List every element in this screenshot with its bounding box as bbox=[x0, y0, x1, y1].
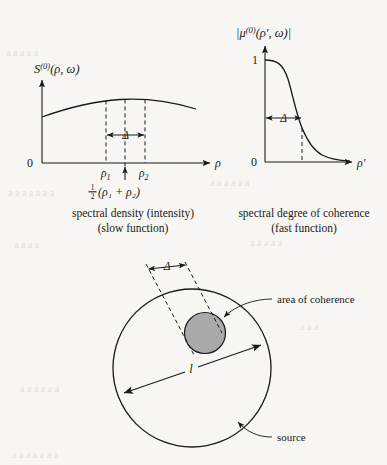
left-plot-caption-line1: spectral density (intensity) bbox=[72, 207, 194, 220]
svg-text:a a a a a a a: a a a a a a a bbox=[8, 187, 55, 198]
midpoint-fraction-denominator: 2 bbox=[91, 192, 95, 201]
source-label-leader bbox=[238, 422, 272, 437]
source-diameter-label: l bbox=[189, 362, 193, 376]
right-plot-y-axis-label: |μ(0)(ρ′, ω)| bbox=[236, 25, 291, 41]
right-plot-ytick-one: 1 bbox=[252, 53, 258, 67]
svg-text:a a a a a a a: a a a a a a a bbox=[12, 449, 59, 460]
left-plot-tick-rho2: ρ2 bbox=[138, 167, 149, 182]
right-plot-delta-label: Δ bbox=[279, 112, 287, 124]
svg-text:a a a a a: a a a a a bbox=[250, 237, 283, 248]
left-plot-origin-label: 0 bbox=[27, 156, 33, 170]
left-plot-y-axis-label: S(0)(ρ, ω) bbox=[34, 61, 80, 77]
svg-text:a a a a a a: a a a a a a bbox=[20, 383, 60, 394]
left-plot-curve bbox=[42, 99, 196, 117]
left-plot-delta-label: Δ bbox=[121, 129, 129, 141]
svg-text:a a a: a a a bbox=[300, 321, 319, 332]
left-plot-midpoint-label: 1 2 (ρ₁ + ρ₂) bbox=[89, 183, 140, 201]
source-delta-label: Δ bbox=[163, 260, 171, 272]
area-of-coherence-circle bbox=[185, 313, 226, 354]
source-diagram: Δ l area of coherence source bbox=[113, 260, 355, 447]
area-of-coherence-label: area of coherence bbox=[277, 293, 355, 305]
left-plot-caption-line2: (slow function) bbox=[98, 222, 169, 235]
svg-text:a a a a: a a a a bbox=[14, 239, 40, 250]
source-diameter-arrow-left bbox=[124, 372, 185, 393]
area-of-coherence-leader bbox=[224, 299, 272, 317]
svg-text:a a a a a a: a a a a a a bbox=[210, 177, 250, 188]
right-plot-origin-label: 0 bbox=[251, 155, 257, 169]
right-plot-caption-line1: spectral degree of coherence bbox=[238, 207, 369, 220]
left-plot-x-axis-label: ρ bbox=[214, 156, 221, 170]
midpoint-expression: (ρ₁ + ρ₂) bbox=[98, 185, 140, 199]
right-plot-curve bbox=[265, 60, 350, 161]
right-plot: Δ |μ(0)(ρ′, ω)| 1 0 ρ′ spectral degree o… bbox=[236, 25, 370, 236]
coherence-figure: a a a a a a a a a a a a a a a a a a a a … bbox=[0, 0, 387, 465]
source-label: source bbox=[277, 431, 306, 443]
left-plot: Δ S(0)(ρ, ω) 0 ρ ρ1 ρ2 1 2 bbox=[27, 61, 221, 236]
right-plot-caption-line2: (fast function) bbox=[271, 222, 337, 235]
svg-text:a a a a a: a a a a a bbox=[6, 47, 39, 58]
left-plot-tick-rho1: ρ1 bbox=[100, 167, 111, 182]
coherence-width-guide-left bbox=[146, 264, 194, 355]
midpoint-fraction-numerator: 1 bbox=[91, 183, 95, 192]
page-bleed-texture: a a a a a a a a a a a a a a a a a a a a … bbox=[6, 47, 319, 460]
right-plot-x-axis-label: ρ′ bbox=[356, 156, 366, 170]
